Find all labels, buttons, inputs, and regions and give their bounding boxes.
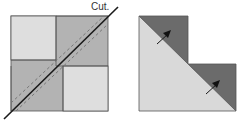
top-left-light-patch <box>11 16 56 60</box>
quilt-diagram <box>0 0 241 127</box>
triangle-unit <box>139 16 236 111</box>
cut-label: Cut. <box>91 1 109 12</box>
bottom-right-light-patch <box>63 66 108 111</box>
four-patch-block <box>4 7 118 119</box>
